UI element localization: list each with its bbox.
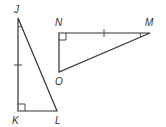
vertex-label-m: M [145, 17, 154, 28]
vertex-label-o: O [55, 76, 63, 87]
vertex-label-n: N [55, 17, 63, 28]
right-angle-marker-n [59, 33, 66, 40]
triangle-nmo: N M O [55, 17, 154, 87]
triangle-jkl-outline [18, 18, 57, 111]
vertex-label-l: L [55, 115, 61, 126]
vertex-label-k: K [12, 115, 20, 126]
triangle-jkl: J K L [12, 4, 61, 126]
right-angle-marker-k [18, 104, 25, 111]
triangle-nmo-outline [59, 33, 150, 72]
geometry-diagram: J K L N M O [0, 0, 166, 127]
vertex-label-j: J [13, 4, 20, 15]
angle-arc-m [140, 33, 141, 37]
